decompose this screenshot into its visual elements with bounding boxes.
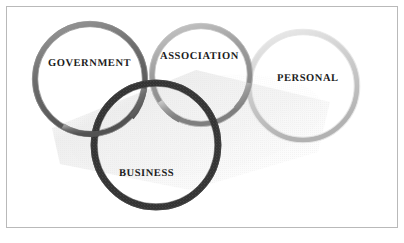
ring-canvas: GOVERNMENT ASSOCIATION PERSONAL BUSINESS: [0, 0, 404, 243]
rings-svg: [0, 0, 404, 243]
ring-label-government: GOVERNMENT: [48, 59, 131, 70]
ring-label-association: ASSOCIATION: [160, 52, 239, 63]
bottom-caption: [7, 236, 247, 243]
diagram-page: GOVERNMENT ASSOCIATION PERSONAL BUSINESS: [0, 0, 404, 243]
ring-label-personal: PERSONAL: [277, 74, 339, 85]
ring-label-business: BUSINESS: [119, 169, 174, 180]
